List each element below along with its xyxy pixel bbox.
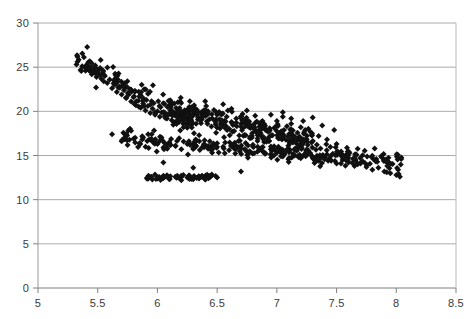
data-point	[220, 101, 226, 107]
data-point	[238, 168, 244, 174]
data-point	[364, 153, 370, 159]
y-tick-label: 10	[0, 194, 29, 205]
data-point	[319, 122, 325, 128]
data-point	[160, 160, 166, 166]
x-tick-label: 8	[393, 298, 399, 309]
data-point	[331, 127, 337, 133]
x-tick-label: 7.5	[329, 298, 345, 309]
x-tick-label: 6.5	[209, 298, 225, 309]
x-tick-label: 7	[274, 298, 280, 309]
x-tick-label: 8.5	[448, 298, 464, 309]
data-point	[288, 115, 294, 121]
x-tick-label: 6	[154, 298, 160, 309]
data-point	[213, 130, 219, 136]
data-point	[191, 130, 197, 136]
data-point	[316, 133, 322, 139]
data-point	[150, 82, 156, 88]
x-tick-label: 5.5	[90, 298, 106, 309]
data-point	[145, 131, 151, 137]
data-point	[375, 165, 381, 171]
data-point	[185, 152, 191, 158]
data-point	[280, 109, 286, 115]
data-point	[298, 124, 304, 130]
data-point	[314, 142, 320, 148]
data-point	[324, 137, 330, 143]
y-tick-label: 5	[0, 238, 29, 249]
y-tick-label: 20	[0, 106, 29, 117]
data-point	[244, 108, 250, 114]
gridlines	[38, 23, 456, 244]
data-point	[221, 134, 227, 140]
data-point	[98, 57, 104, 63]
scatter-points	[74, 44, 405, 183]
data-point	[125, 142, 131, 148]
data-point	[318, 146, 324, 152]
data-point	[369, 167, 375, 173]
data-point	[178, 146, 184, 152]
data-point	[196, 132, 202, 138]
y-tick-label: 0	[0, 283, 29, 294]
data-point	[355, 146, 361, 152]
data-point	[268, 112, 274, 118]
y-tick-label: 25	[0, 62, 29, 73]
plot-area	[0, 0, 476, 319]
data-point	[236, 133, 242, 139]
data-point	[84, 44, 90, 50]
x-axis-ticks	[38, 288, 456, 293]
data-point	[300, 118, 306, 124]
data-point	[160, 91, 166, 97]
data-point	[104, 64, 110, 70]
scatter-chart: 051015202530 55.566.577.588.5	[0, 0, 476, 319]
data-point	[310, 115, 316, 121]
data-point	[252, 113, 258, 119]
y-axis-ticks	[33, 23, 38, 288]
y-tick-label: 30	[0, 18, 29, 29]
x-tick-label: 5	[35, 298, 41, 309]
data-point	[110, 64, 116, 70]
data-point	[93, 85, 99, 91]
data-point	[173, 143, 179, 149]
y-tick-label: 15	[0, 150, 29, 161]
data-point	[372, 145, 378, 151]
data-point	[187, 98, 193, 104]
data-point	[202, 98, 208, 104]
data-point	[154, 149, 160, 155]
data-point	[190, 165, 196, 171]
data-point	[178, 95, 184, 101]
data-point	[109, 131, 115, 137]
